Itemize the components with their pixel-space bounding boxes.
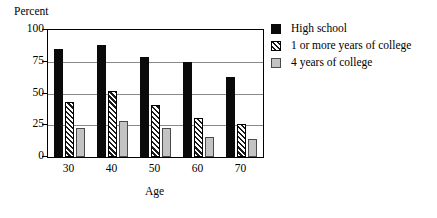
y-axis-tick-label: 100 xyxy=(0,23,44,35)
legend-item-four-year-college: 4 years of college xyxy=(271,54,435,71)
x-axis-tick-label: 30 xyxy=(49,162,89,174)
bar xyxy=(97,45,106,157)
x-axis-tick-label: 50 xyxy=(135,162,175,174)
bar xyxy=(108,91,117,157)
legend-swatch-icon-high-school xyxy=(271,24,281,34)
y-axis-tick-label: 75 xyxy=(0,55,44,67)
bar-group xyxy=(140,30,171,157)
y-axis-tick-label: 50 xyxy=(0,87,44,99)
bar xyxy=(237,124,246,157)
bar xyxy=(194,118,203,157)
bar xyxy=(65,102,74,157)
bar xyxy=(183,62,192,157)
bar xyxy=(162,128,171,157)
bar xyxy=(76,128,85,157)
x-axis-tick-label: 70 xyxy=(221,162,261,174)
bar-group xyxy=(183,30,214,157)
legend-item-some-college: 1 or more years of college xyxy=(271,37,435,54)
bar xyxy=(54,49,63,157)
x-axis-tick-label: 60 xyxy=(178,162,218,174)
legend-label: 4 years of college xyxy=(291,56,372,69)
legend-label: High school xyxy=(291,22,347,35)
x-axis-tick-label: 40 xyxy=(92,162,132,174)
legend-label: 1 or more years of college xyxy=(291,39,411,52)
bar xyxy=(151,105,160,157)
plot-area xyxy=(47,29,264,158)
bar-group xyxy=(54,30,85,157)
bar xyxy=(226,77,235,157)
legend-item-high-school: High school xyxy=(271,20,435,37)
bar xyxy=(140,57,149,157)
bar-group xyxy=(226,30,257,157)
legend-swatch-icon-some-college xyxy=(271,41,281,51)
bar-group xyxy=(97,30,128,157)
y-axis-tick-label: 0 xyxy=(0,150,44,162)
bar xyxy=(119,121,128,157)
bar-chart: Percent 0255075100 Age High school 1 or … xyxy=(0,0,437,218)
bar xyxy=(248,139,257,157)
bar xyxy=(205,137,214,157)
y-axis-tick-label: 25 xyxy=(0,118,44,130)
x-axis-title: Age xyxy=(47,185,262,197)
legend: High school 1 or more years of college 4… xyxy=(271,20,435,71)
legend-swatch-icon-four-year-college xyxy=(271,58,281,68)
y-axis-ticks: 0255075100 xyxy=(0,0,44,218)
